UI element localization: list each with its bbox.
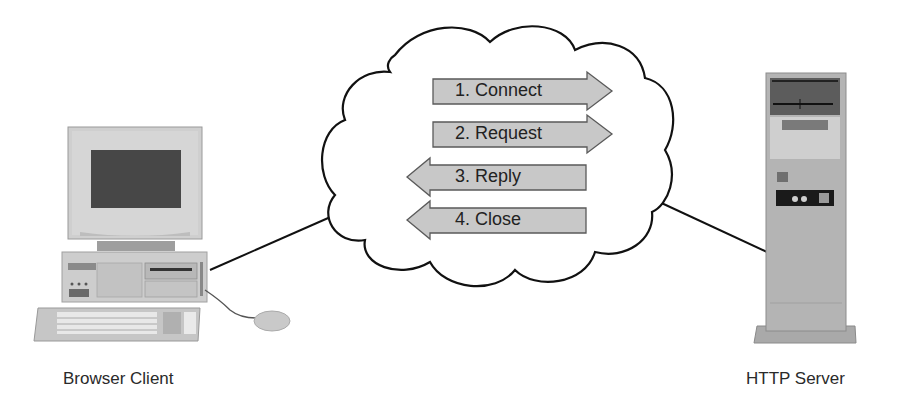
desktop-computer-icon bbox=[34, 127, 290, 341]
client-connection-line bbox=[210, 215, 335, 270]
cloud-icon bbox=[322, 26, 673, 286]
step-4-label: 4. Close bbox=[455, 209, 521, 230]
step-2-label: 2. Request bbox=[455, 123, 542, 144]
client-label: Browser Client bbox=[63, 369, 174, 389]
step-1-label: 1. Connect bbox=[455, 80, 542, 101]
server-label: HTTP Server bbox=[746, 369, 845, 389]
http-diagram bbox=[0, 0, 898, 401]
server-connection-line bbox=[655, 200, 767, 252]
tower-server-icon bbox=[754, 73, 856, 343]
step-3-label: 3. Reply bbox=[455, 166, 521, 187]
